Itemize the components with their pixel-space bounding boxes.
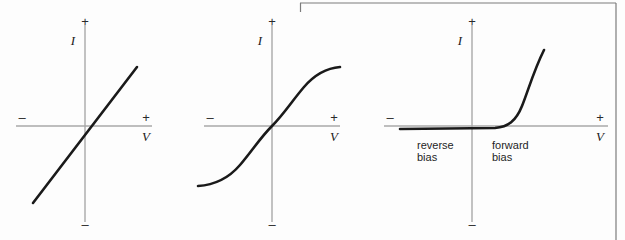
panel1-y-negative-sign: –	[81, 217, 89, 232]
panel3-x-positive-sign: +	[596, 110, 604, 125]
panel-resistor: + – + – I V	[16, 14, 152, 232]
panel2-y-positive-sign: +	[268, 14, 276, 29]
panel1-x-positive-sign: +	[142, 110, 150, 125]
panel3-y-positive-sign: +	[468, 14, 476, 29]
panel1-y-axis-label: I	[70, 33, 76, 48]
panel-diode: + – + – I V reverse bias forward bias	[384, 14, 608, 232]
panel3-x-negative-sign: –	[386, 110, 394, 125]
iv-characteristic-figure: + – + – I V + – + – I V + – +	[0, 0, 625, 240]
panel3-y-negative-sign: –	[468, 217, 476, 232]
panel1-x-negative-sign: –	[18, 110, 26, 125]
reverse-bias-label-line2: bias	[417, 151, 438, 163]
panel1-y-positive-sign: +	[81, 14, 89, 29]
reverse-bias-label-line1: reverse	[417, 139, 454, 151]
panel-saturating: + – + – I V	[198, 14, 340, 232]
panel2-x-positive-sign: +	[330, 110, 338, 125]
panel2-y-negative-sign: –	[268, 217, 276, 232]
panel1-x-axis-label: V	[142, 129, 152, 144]
forward-bias-label-line1: forward	[492, 139, 529, 151]
forward-bias-label-line2: bias	[492, 151, 513, 163]
panel3-y-axis-label: I	[457, 33, 463, 48]
panel3-x-axis-label: V	[596, 129, 606, 144]
panel2-y-axis-label: I	[257, 33, 263, 48]
panel2-x-negative-sign: –	[206, 110, 214, 125]
panel2-x-axis-label: V	[330, 129, 340, 144]
